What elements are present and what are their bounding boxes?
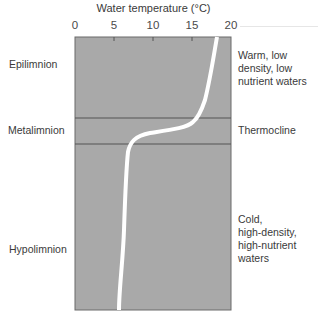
- note-line: Thermocline: [238, 124, 318, 137]
- layer-label-hypolimnion: Hypolimnion: [9, 243, 67, 256]
- note-line: high-density,: [238, 226, 318, 239]
- epilimnion-description: Warm, low density, low nutrient waters: [238, 49, 318, 88]
- layer-label-epilimnion: Epilimnion: [9, 58, 57, 71]
- temperature-profile-plot: [0, 0, 318, 316]
- note-line: waters: [238, 252, 318, 265]
- layer-label-metalimnion: Metalimnion: [8, 124, 65, 137]
- hypolimnion-description: Cold, high-density, high-nutrient waters: [238, 213, 318, 265]
- plot-area: [75, 37, 231, 310]
- note-line: nutrient waters: [238, 75, 318, 88]
- note-line: Cold,: [238, 213, 318, 226]
- metalimnion-description: Thermocline: [238, 124, 318, 137]
- note-line: Warm, low: [238, 49, 318, 62]
- note-line: high-nutrient: [238, 239, 318, 252]
- note-line: density, low: [238, 62, 318, 75]
